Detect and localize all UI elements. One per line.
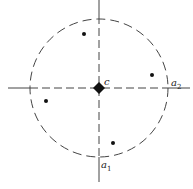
data-point bbox=[150, 73, 154, 77]
data-point bbox=[44, 99, 48, 103]
axis-a2-label: a2 bbox=[171, 77, 181, 91]
center-label: c bbox=[104, 76, 110, 87]
data-point bbox=[82, 32, 86, 36]
data-point bbox=[111, 141, 115, 145]
diagram-canvas: c a2 a1 bbox=[0, 0, 193, 189]
axis-a1-label: a1 bbox=[101, 159, 111, 173]
